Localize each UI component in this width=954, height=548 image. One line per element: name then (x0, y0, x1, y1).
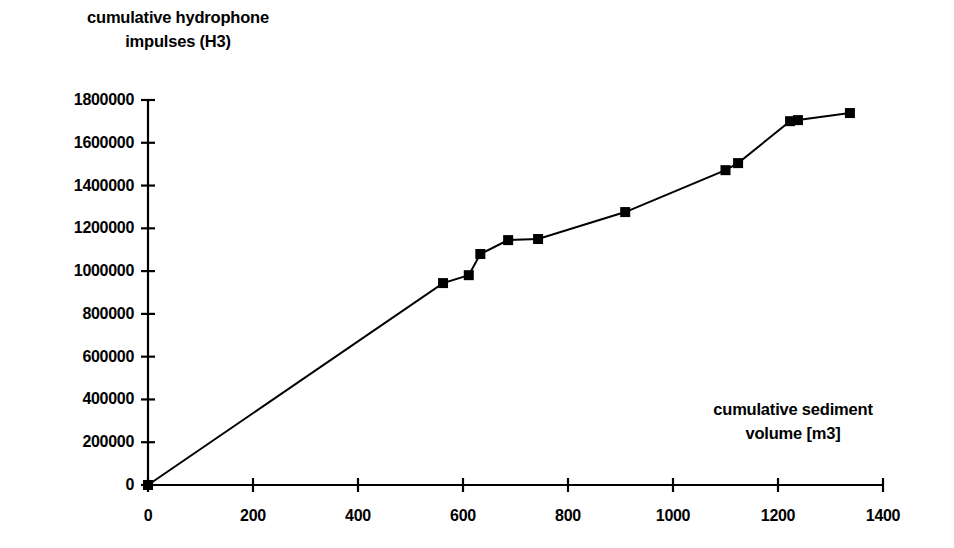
data-point-marker (793, 115, 803, 125)
data-point-marker (845, 108, 855, 118)
axis-lines (148, 100, 883, 485)
x-tick-label: 400 (345, 507, 371, 525)
data-point-marker (143, 480, 153, 490)
y-tick-label: 0 (125, 476, 134, 494)
x-tick-label: 1000 (656, 507, 690, 525)
data-series-line (148, 113, 850, 485)
plot-area (0, 0, 954, 548)
data-point-marker (464, 270, 474, 280)
x-tick-label: 1400 (866, 507, 900, 525)
data-point-markers (143, 108, 855, 490)
tick-marks (141, 100, 883, 492)
y-tick-label: 800000 (82, 305, 134, 323)
y-tick-label: 400000 (82, 390, 134, 408)
x-tick-label: 800 (555, 507, 581, 525)
data-point-marker (620, 207, 630, 217)
y-tick-label: 1600000 (74, 134, 134, 152)
y-tick-label: 1400000 (74, 177, 134, 195)
data-point-marker (475, 249, 485, 259)
data-point-marker (438, 278, 448, 288)
data-point-marker (533, 234, 543, 244)
x-tick-label: 1200 (761, 507, 795, 525)
y-tick-label: 200000 (82, 433, 134, 451)
data-point-marker (721, 165, 731, 175)
y-tick-label: 600000 (82, 348, 134, 366)
chart-figure: cumulative hydrophone impulses (H3) cumu… (0, 0, 954, 548)
y-tick-label: 1200000 (74, 219, 134, 237)
data-point-marker (733, 158, 743, 168)
x-tick-label: 200 (240, 507, 266, 525)
y-tick-label: 1000000 (74, 262, 134, 280)
x-tick-label: 600 (450, 507, 476, 525)
x-tick-label: 0 (144, 507, 153, 525)
data-point-marker (503, 235, 513, 245)
y-tick-label: 1800000 (74, 91, 134, 109)
